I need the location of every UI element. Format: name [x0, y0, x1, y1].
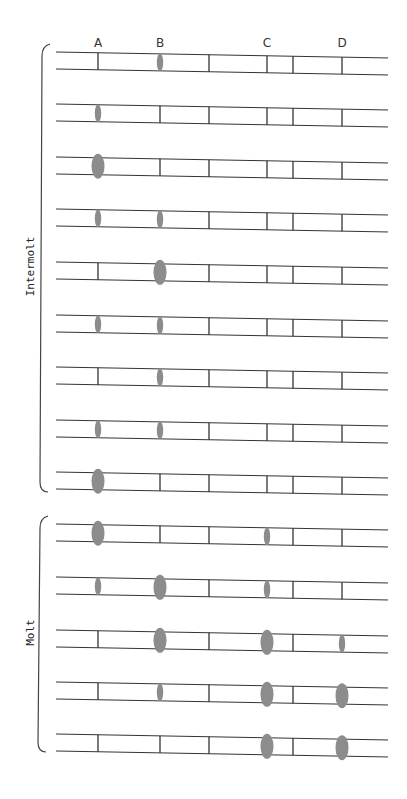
band-large	[92, 521, 105, 546]
band-small	[157, 210, 163, 228]
band-large	[154, 575, 167, 600]
lane-row	[56, 521, 388, 547]
band-small	[157, 316, 163, 334]
lane-row	[56, 209, 388, 232]
group-bracket-intermolt	[40, 44, 50, 492]
band-large	[92, 154, 105, 179]
group-label-intermolt: Intermolt	[24, 237, 37, 297]
band-large	[154, 628, 167, 653]
band-small	[264, 527, 270, 545]
column-label-b: B	[156, 36, 164, 50]
band-small	[95, 420, 101, 438]
column-label-d: D	[337, 36, 346, 50]
band-large	[336, 735, 349, 760]
gel-diagram	[0, 0, 407, 799]
band-small	[157, 368, 163, 386]
band-small	[264, 580, 270, 598]
lane-row	[56, 420, 388, 443]
column-label-a: A	[94, 36, 102, 50]
band-small	[339, 635, 345, 653]
lane-row	[56, 154, 388, 180]
group-bracket-molt	[38, 516, 48, 752]
lane-row	[56, 628, 388, 655]
band-small	[95, 104, 101, 122]
lane-row	[56, 260, 388, 285]
column-label-c: C	[263, 36, 271, 50]
lane-row	[56, 575, 388, 600]
band-large	[261, 682, 274, 707]
band-large	[154, 260, 167, 285]
band-small	[157, 683, 163, 701]
band-small	[95, 315, 101, 333]
lane-row	[56, 682, 388, 708]
lane-row	[56, 469, 388, 495]
band-small	[157, 421, 163, 439]
band-large	[261, 630, 274, 655]
lane-row	[56, 315, 388, 338]
lane-row	[56, 52, 388, 75]
band-large	[336, 683, 349, 708]
group-label-molt: Molt	[24, 615, 37, 651]
band-small	[95, 577, 101, 595]
band-large	[261, 734, 274, 759]
band-small	[95, 209, 101, 227]
lane-row	[56, 734, 388, 760]
lane-row	[56, 104, 388, 127]
band-large	[92, 469, 105, 494]
lane-row	[56, 367, 388, 390]
band-small	[157, 53, 163, 71]
